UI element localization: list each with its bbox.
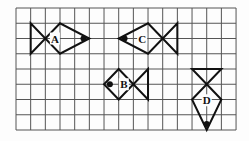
- fish-grid-diagram: ACBD: [0, 0, 249, 141]
- fish-label: A: [51, 33, 59, 45]
- fish-eye-icon: [204, 121, 210, 127]
- fish-eye-icon: [107, 81, 113, 87]
- fish-label: B: [120, 78, 128, 90]
- fish-eye-icon: [122, 36, 128, 42]
- fish-figures: ACBD: [31, 23, 222, 130]
- grid-canvas: ACBD: [0, 0, 249, 141]
- fish-eye-icon: [80, 36, 86, 42]
- fish-label: C: [138, 33, 146, 45]
- fish-label: D: [203, 94, 211, 106]
